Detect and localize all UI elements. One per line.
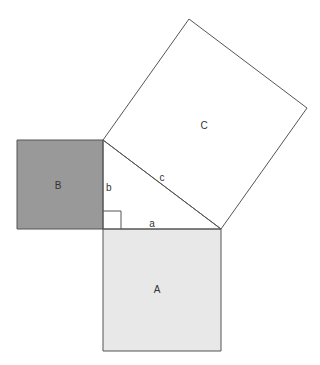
square-c-label: C [200, 120, 207, 131]
square-a [103, 229, 221, 351]
square-b-label: B [55, 180, 62, 191]
side-b-label: b [106, 182, 112, 193]
side-a-label: a [149, 218, 155, 229]
side-c-label: c [160, 172, 165, 183]
square-a-label: A [154, 284, 161, 295]
pythagorean-diagram: A B C a b c [0, 0, 320, 365]
right-angle-marker [103, 211, 121, 229]
